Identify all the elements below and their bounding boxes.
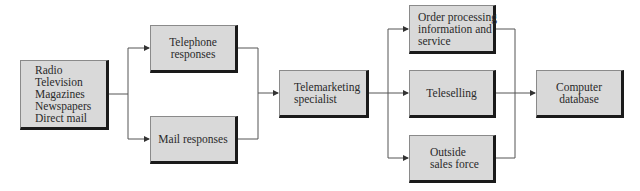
telemarketing-flow-diagram: Radio Television Magazines Newspapers Di… [0,0,640,191]
source-magazines: Magazines [35,88,85,100]
box-label: Teleselling [426,87,476,99]
source-newspapers: Newspapers [35,100,91,112]
box-label: Mail responses [158,133,227,145]
box-label: Outside [430,146,466,158]
box-label: specialist [294,93,337,105]
box-label: service [418,35,451,47]
media-sources-box: Radio Television Magazines Newspapers Di… [20,60,109,130]
box-label: Computer [556,81,602,93]
box-label: Telemarketing [294,81,360,93]
mail-responses-box: Mail responses [150,116,238,164]
source-radio: Radio [35,64,62,76]
box-label: responses [171,48,216,60]
outside-sales-force-box: Outside sales force [409,135,496,183]
computer-database-box: Computer database [536,70,624,118]
source-direct-mail: Direct mail [35,112,87,124]
telephone-responses-box: Telephone responses [150,25,238,73]
box-label: database [559,93,599,105]
box-label: information and [418,23,492,35]
box-label: Telephone [169,36,217,48]
teleselling-box: Teleselling [409,70,496,118]
order-processing-box: Order processing information and service [409,5,496,54]
box-label: sales force [430,158,479,170]
source-television: Television [35,76,83,88]
box-label: Order processing [418,11,497,23]
telemarketing-specialist-box: Telemarketing specialist [279,70,369,118]
